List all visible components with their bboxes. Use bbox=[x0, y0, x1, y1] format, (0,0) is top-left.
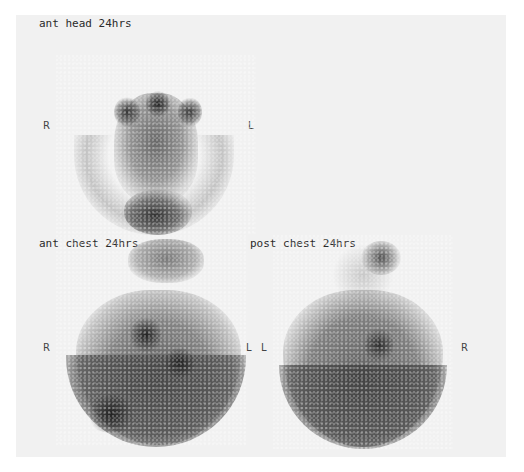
right-side-marker: R bbox=[43, 342, 50, 353]
head-uptake-image bbox=[56, 55, 256, 235]
ant-chest-view: ant chest 24hrs R L bbox=[16, 235, 261, 457]
left-side-marker: L bbox=[246, 342, 252, 353]
scintigraphy-viewer: ant head 24hrs R L ant chest 24hrs R L bbox=[16, 15, 506, 457]
ant-head-view: ant head 24hrs R L bbox=[16, 15, 261, 235]
ant-chest-uptake-image bbox=[56, 235, 246, 447]
post-chest-view: post chest 24hrs L R bbox=[261, 235, 506, 457]
post-chest-uptake-image bbox=[273, 235, 453, 449]
left-side-marker: L bbox=[261, 342, 267, 353]
view-title: ant head 24hrs bbox=[39, 18, 132, 30]
right-side-marker: R bbox=[461, 342, 468, 353]
right-side-marker: R bbox=[43, 120, 50, 131]
